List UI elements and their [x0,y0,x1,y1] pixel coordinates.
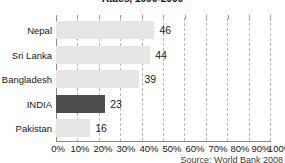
bar-bangladesh [56,70,139,88]
bar-pakistan [56,119,90,137]
category-label-nepal: Nepal [0,25,52,36]
xtick-label-70: 70% [208,143,227,154]
bar-row: 44 [56,43,270,68]
chart-title: Rates, 1990-2000 [0,0,285,4]
source-note: Source: World Bank 2008 [181,155,283,163]
bar-india [56,95,105,113]
plot-area: 46 44 39 23 16 [56,18,270,141]
bar-value-nepal: 46 [154,21,171,39]
bars: 46 44 39 23 16 [56,18,270,141]
bar-value-pakistan: 16 [90,119,107,137]
category-label-bangladesh: Bangladesh [0,74,52,85]
xtick-label-10: 10% [70,143,89,154]
bar-value-bangladesh: 39 [139,70,156,88]
xtick-label-40: 40% [139,143,158,154]
xtick-label-80: 80% [230,143,249,154]
bar-value-sri-lanka: 44 [150,46,167,64]
gridline-100 [270,18,271,141]
bar-sri-lanka [56,46,150,64]
xtick-label-60: 60% [185,143,204,154]
bar-row: 16 [56,116,270,141]
x-axis-line [56,141,271,142]
category-label-pakistan: Pakistan [0,123,52,134]
bar-row: 23 [56,92,270,117]
category-label-india: INDIA [0,99,52,110]
xtick-label-50: 50% [162,143,181,154]
xtick-label-100: 100% [268,143,285,154]
xtick-label-0: 0% [51,143,65,154]
bar-nepal [56,21,154,39]
bar-value-india: 23 [105,95,122,113]
bar-chart: Rates, 1990-2000 46 [0,0,285,163]
xtick-label-30: 30% [116,143,135,154]
category-label-sri-lanka: Sri Lanka [0,50,52,61]
bar-row: 39 [56,67,270,92]
bar-row: 46 [56,18,270,43]
xtick-label-20: 20% [93,143,112,154]
